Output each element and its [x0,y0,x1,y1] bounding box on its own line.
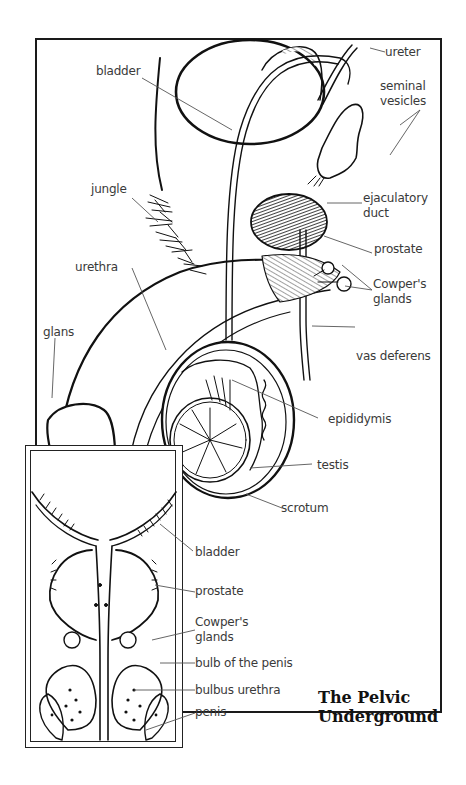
label-epididymis: epididymis [328,412,391,426]
label-cowpers-glands-2: glands [373,292,412,306]
inset-label-cowpers-glands-2: glands [195,630,234,644]
label-ejaculatory-duct-1: ejaculatory [363,191,428,205]
inset-label-bulb-of-the-penis: bulb of the penis [195,656,293,670]
label-bladder: bladder [96,64,140,78]
label-cowpers-glands-1: Cowper's [373,277,426,291]
label-testis: testis [317,458,348,472]
figure-title-line-1: The Pelvic [318,688,410,707]
label-urethra: urethra [75,260,118,274]
label-prostate: prostate [374,242,422,256]
figure-title-line-2: Underground [318,707,438,726]
inset-label-bladder: bladder [195,545,239,559]
label-ejaculatory-duct-2: duct [363,206,389,220]
label-jungle: jungle [91,182,127,196]
label-vas-deferens: vas deferens [356,349,431,363]
label-glans: glans [43,325,74,339]
inset-label-penis: penis [195,705,226,719]
label-seminal-vesicles-2: vesicles [380,94,426,108]
inset-label-cowpers-glands-1: Cowper's [195,615,248,629]
inset-label-bulbus-urethra: bulbus urethra [195,683,280,697]
label-ureter: ureter [385,45,420,59]
figure-title: The PelvicUnderground [318,688,438,726]
label-scrotum: scrotum [281,501,328,515]
inset-label-prostate: prostate [195,584,243,598]
label-seminal-vesicles-1: seminal [380,79,426,93]
